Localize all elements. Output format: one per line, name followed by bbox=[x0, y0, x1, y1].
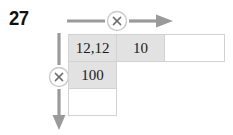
multiplication-grid: 12,12 10 100 bbox=[68, 34, 225, 116]
multiply-symbol-horizontal bbox=[113, 17, 120, 24]
grid-cell-r3c1[interactable] bbox=[69, 89, 117, 116]
exercise-number: 27 bbox=[9, 7, 29, 28]
grid-cell-value: 12,12 bbox=[69, 36, 116, 61]
table-row: 100 bbox=[69, 62, 225, 89]
arrow-down-icon bbox=[53, 115, 66, 130]
grid-cell-value: 10 bbox=[117, 36, 164, 61]
grid-cell-r1c3[interactable] bbox=[165, 35, 225, 62]
multiply-circle-icon-horizontal bbox=[108, 12, 127, 31]
multiply-symbol-vertical bbox=[55, 73, 62, 80]
arrow-right-icon bbox=[156, 15, 173, 28]
grid-cell-r1c1[interactable]: 12,12 bbox=[69, 35, 117, 62]
grid-cell-r1c2[interactable]: 10 bbox=[117, 35, 165, 62]
multiply-circle-icon-vertical bbox=[50, 68, 69, 87]
grid-cell-value: 100 bbox=[69, 63, 116, 88]
worksheet-diagram: 27 12,12 bbox=[0, 0, 233, 135]
table-row: 12,12 10 bbox=[69, 35, 225, 62]
grid-cell-r3c3-empty bbox=[165, 89, 225, 116]
grid-cell-r2c2-empty bbox=[117, 62, 165, 89]
grid-cell-r3c2-empty bbox=[117, 89, 165, 116]
grid-cell-r2c1[interactable]: 100 bbox=[69, 62, 117, 89]
grid-cell-r2c3-empty bbox=[165, 62, 225, 89]
table-row bbox=[69, 89, 225, 116]
